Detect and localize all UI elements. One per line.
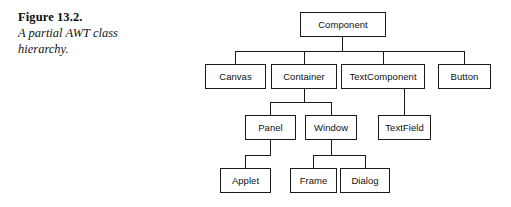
edge-drop-canvas bbox=[235, 51, 236, 64]
class-node-label: TextField bbox=[385, 123, 423, 133]
edge-drop-panel bbox=[270, 102, 271, 115]
edge-drop-window bbox=[331, 102, 332, 115]
class-node-label: Applet bbox=[232, 176, 259, 186]
edge-component-stub bbox=[342, 37, 343, 52]
edge-window-stub bbox=[331, 140, 332, 155]
class-node-dialog: Dialog bbox=[340, 168, 390, 193]
edge-drop-frame bbox=[313, 155, 314, 168]
class-node-label: Canvas bbox=[219, 72, 252, 82]
class-node-label: Window bbox=[314, 123, 348, 133]
class-node-component: Component bbox=[300, 12, 386, 37]
class-node-label: Dialog bbox=[351, 176, 378, 186]
edge-bus-row4 bbox=[313, 155, 366, 156]
edge-textcomponent-to-textfield bbox=[404, 89, 405, 115]
class-node-window: Window bbox=[305, 115, 357, 140]
class-hierarchy-diagram: ComponentCanvasContainerTextComponentBut… bbox=[0, 0, 511, 207]
figure-page: Figure 13.2. A partial AWT class hierarc… bbox=[0, 0, 511, 207]
edge-drop-container bbox=[304, 51, 305, 64]
edge-bus-row2 bbox=[235, 51, 464, 52]
class-node-canvas: Canvas bbox=[205, 64, 266, 89]
class-node-frame: Frame bbox=[290, 168, 337, 193]
class-node-label: TextComponent bbox=[349, 72, 416, 82]
edge-drop-applet bbox=[245, 155, 246, 168]
edge-drop-dialog bbox=[365, 155, 366, 168]
edge-drop-button bbox=[464, 51, 465, 64]
class-node-label: Panel bbox=[258, 123, 283, 133]
class-node-button: Button bbox=[438, 64, 491, 89]
class-node-label: Frame bbox=[300, 176, 328, 186]
edge-panel-stub bbox=[270, 140, 271, 155]
class-node-textcomponent: TextComponent bbox=[341, 64, 425, 89]
edge-drop-textcomponent bbox=[383, 51, 384, 64]
class-node-label: Container bbox=[283, 72, 325, 82]
edge-container-stub bbox=[304, 89, 305, 102]
class-node-container: Container bbox=[271, 64, 337, 89]
class-node-panel: Panel bbox=[245, 115, 296, 140]
class-node-label: Component bbox=[318, 20, 368, 30]
edge-bus-row3 bbox=[270, 102, 332, 103]
class-node-applet: Applet bbox=[220, 168, 271, 193]
edge-jog-applet bbox=[245, 155, 271, 156]
class-node-textfield: TextField bbox=[378, 115, 431, 140]
class-node-label: Button bbox=[451, 72, 479, 82]
